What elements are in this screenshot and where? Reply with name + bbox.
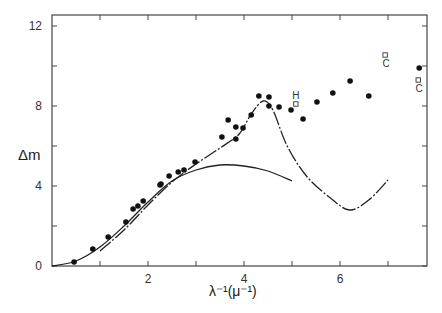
data-point [300, 116, 306, 122]
data-point [135, 203, 141, 209]
data-point [330, 90, 336, 96]
data-point [130, 206, 136, 212]
data-point [288, 107, 294, 113]
point-label: C [416, 83, 423, 94]
data-point [225, 117, 231, 123]
data-point [219, 134, 225, 140]
data-point [276, 104, 282, 110]
open-square-marker [383, 53, 387, 57]
y-tick-label: 0 [35, 259, 42, 273]
data-point [233, 124, 239, 130]
solid-model-curve [52, 165, 292, 266]
y-tick-label: 12 [29, 19, 43, 33]
axis-tick-labels: 24604812 [29, 19, 344, 286]
point-label: C [383, 58, 390, 69]
data-point [266, 103, 272, 109]
data-point [123, 219, 129, 225]
chart: 24604812 HCC Δm λ⁻¹(μ⁻¹) [0, 0, 442, 313]
open-square-marker [294, 102, 298, 106]
point-label: H [292, 90, 299, 101]
data-point [90, 246, 96, 252]
data-point [158, 181, 164, 187]
plot-border [52, 15, 427, 266]
data-point [175, 169, 181, 175]
data-points: HCC [71, 53, 423, 265]
data-point [71, 259, 77, 265]
model-curves [52, 101, 388, 266]
y-tick-label: 4 [35, 179, 42, 193]
data-point [347, 78, 353, 84]
data-point [256, 93, 262, 99]
data-point [166, 173, 172, 179]
data-point [266, 94, 272, 100]
x-tick-label: 6 [337, 272, 344, 286]
data-point [416, 65, 422, 71]
open-square-marker [416, 78, 420, 82]
axis-ticks [52, 15, 427, 266]
x-axis-label: λ⁻¹(μ⁻¹) [209, 283, 257, 299]
data-point [248, 112, 254, 118]
data-point [233, 136, 239, 142]
data-point [140, 198, 146, 204]
y-axis-label: Δm [18, 146, 41, 163]
data-point [366, 93, 372, 99]
y-tick-label: 8 [35, 99, 42, 113]
data-point [105, 234, 111, 240]
data-point [192, 159, 198, 165]
dash-dot-model-curve [100, 101, 388, 251]
plot-frame [52, 15, 427, 266]
data-point [240, 125, 246, 131]
data-point [314, 99, 320, 105]
x-tick-label: 2 [145, 272, 152, 286]
data-point [181, 167, 187, 173]
